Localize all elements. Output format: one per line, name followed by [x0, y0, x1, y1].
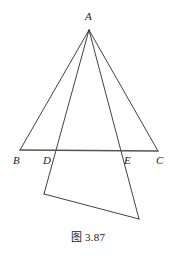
segment-A-G [89, 30, 139, 219]
segment-A-B [20, 30, 89, 150]
vertex-label-A: A [85, 11, 92, 22]
vertex-label-B: B [13, 155, 20, 166]
segment-A-F [44, 30, 89, 194]
segment-F-G [44, 194, 139, 219]
figure-caption: 图 3.87 [0, 231, 176, 244]
segment-A-C [89, 30, 158, 151]
geometry-drawing [0, 0, 176, 258]
vertex-label-C: C [156, 155, 163, 166]
geometry-figure: A B D E C 图 3.87 [0, 0, 176, 258]
vertex-label-E: E [124, 155, 131, 166]
segment-B-C-baseline [20, 150, 158, 151]
vertex-label-D: D [43, 155, 51, 166]
